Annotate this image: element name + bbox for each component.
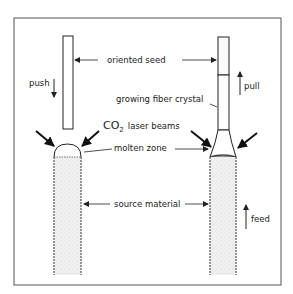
oriented-seed-label: oriented seed	[107, 55, 166, 65]
fiber-growth-diagram: push pull feed oriented seed growing fib…	[0, 0, 293, 294]
co2-laser-beams-label: CO2laser beams	[103, 119, 180, 134]
left-laser-arrow-icon-2	[82, 131, 99, 146]
feed-label: feed	[251, 214, 270, 224]
left-molten-dome	[54, 144, 81, 157]
left-source-material	[54, 157, 81, 275]
molten-zone-label: molten zone	[114, 143, 167, 153]
left-seed-rod	[63, 36, 73, 129]
pull-label: pull	[244, 81, 260, 91]
right-laser-arrow-icon-1	[191, 131, 211, 147]
source-material-label: source material	[114, 199, 180, 209]
push-label: push	[29, 78, 50, 88]
right-seed-rod	[218, 37, 229, 75]
right-laser-arrow-icon-2	[238, 133, 257, 148]
left-laser-arrow-icon-1	[36, 131, 54, 146]
growing-fiber-crystal-label: growing fiber crystal	[116, 94, 203, 104]
right-molten-zone	[210, 130, 236, 157]
growing-fiber	[218, 75, 229, 130]
right-source-material	[210, 157, 236, 275]
